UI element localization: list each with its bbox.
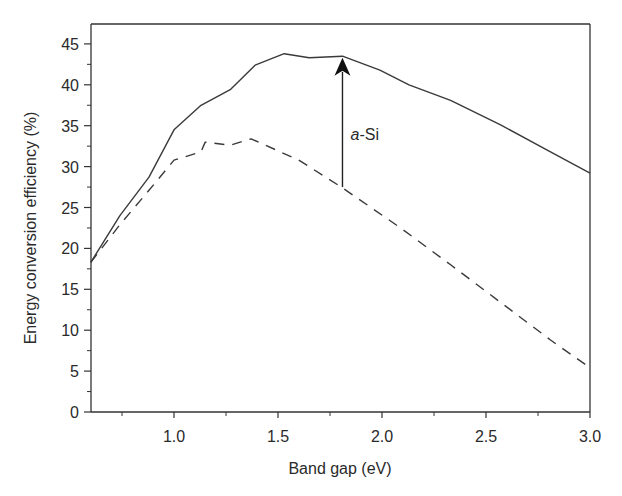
chart: 051015202530354045 1.01.52.02.53.0 a-Si … — [0, 0, 622, 496]
y-ticks: 051015202530354045 — [61, 36, 91, 421]
y-tick-label: 30 — [61, 159, 79, 176]
y-tick-label: 10 — [61, 322, 79, 339]
y-tick-label: 45 — [61, 36, 79, 53]
x-tick-label: 2.5 — [475, 428, 497, 445]
x-tick-label: 2.0 — [371, 428, 393, 445]
x-tick-label: 1.5 — [267, 428, 289, 445]
y-tick-label: 0 — [70, 404, 79, 421]
y-tick-label: 25 — [61, 200, 79, 217]
y-tick-label: 15 — [61, 281, 79, 298]
series-group — [91, 54, 590, 368]
y-tick-label: 20 — [61, 240, 79, 257]
annotation-label: a-Si — [350, 126, 378, 143]
axes — [91, 24, 590, 412]
solid-curve — [91, 54, 590, 263]
x-tick-label: 1.0 — [163, 428, 185, 445]
annotation-a-si: a-Si — [334, 58, 378, 187]
x-axis-label: Band gap (eV) — [288, 460, 391, 477]
y-tick-label: 35 — [61, 118, 79, 135]
x-ticks: 1.01.52.02.53.0 — [122, 412, 601, 445]
y-axis-label: Energy conversion efficiency (%) — [22, 112, 39, 345]
x-tick-label: 3.0 — [579, 428, 601, 445]
dashed-curve — [91, 139, 590, 368]
y-tick-label: 40 — [61, 77, 79, 94]
y-tick-label: 5 — [70, 363, 79, 380]
